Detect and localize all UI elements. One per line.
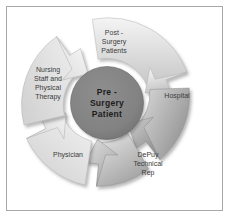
label-post-surgery-patients-line1: Post - <box>105 29 124 36</box>
label-depuy-technical-rep-line2: Technical <box>133 160 163 167</box>
label-depuy-technical-rep-line3: Rep <box>142 169 155 177</box>
label-nursing-line1: Nursing <box>36 66 60 74</box>
label-physician-line1: Physician <box>53 151 83 159</box>
label-nursing-staff-and-physical-therapy: Nursing Staff and Physical Therapy <box>34 66 62 101</box>
label-physician: Physician <box>53 151 83 159</box>
label-nursing-line2: Staff and <box>34 75 62 82</box>
label-hospital-line1: Hospital <box>164 92 190 100</box>
center-label-line2: Surgery <box>90 98 124 108</box>
label-nursing-line3: Physical <box>35 84 62 92</box>
label-post-surgery-patients-line3: Patients <box>101 47 127 54</box>
label-depuy-technical-rep-line1: DePuy <box>137 151 159 159</box>
cycle-diagram: Pre - Surgery Patient Post - Surgery Pat… <box>0 0 230 218</box>
label-nursing-line4: Therapy <box>35 93 61 101</box>
cycle-diagram-svg: Pre - Surgery Patient Post - Surgery Pat… <box>0 0 230 218</box>
center-label-line3: Patient <box>92 109 122 119</box>
label-post-surgery-patients-line2: Surgery <box>102 38 127 46</box>
label-hospital: Hospital <box>164 92 190 100</box>
center-label-line1: Pre - <box>97 87 117 97</box>
